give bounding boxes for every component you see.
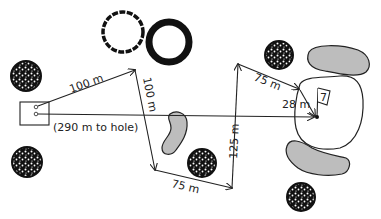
tee-marker-icon (34, 105, 38, 109)
shot-label-6: 28 m (282, 98, 310, 111)
tee-distance-note: (290 m to hole) (53, 121, 138, 134)
shot-label-5: 75 m (252, 71, 283, 94)
shot-label-1: 100 m (68, 72, 106, 96)
trees (11, 12, 315, 211)
putting-green (295, 76, 363, 149)
tree-icon (188, 149, 216, 177)
tree-icon (265, 41, 293, 69)
tree-icon (11, 61, 41, 91)
tee-marker-icon (34, 112, 38, 116)
bunker-fairway (162, 112, 187, 154)
tree-icon (12, 147, 42, 177)
tree-icon (287, 183, 315, 211)
tee-box (20, 102, 49, 125)
tree-icon (103, 12, 143, 52)
golf-hole-diagram: 7 (290 m to hole) 100 m 100 m 75 m 125 m… (0, 0, 381, 219)
bunker-behind-green (308, 46, 370, 75)
tree-icon (149, 22, 189, 62)
hole-cup-icon (315, 115, 319, 119)
hole-number: 7 (320, 91, 327, 104)
shot-label-4: 125 m (227, 123, 242, 159)
